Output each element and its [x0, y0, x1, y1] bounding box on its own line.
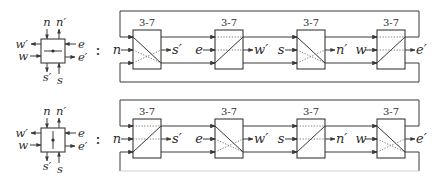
separator-colon: :	[95, 40, 100, 59]
port-label-w: w	[18, 138, 28, 152]
node-center-dot	[51, 138, 54, 141]
switch-configuration-diagram: nn′w′wee′s′s:ns′3-7ew′3-7sn′3-7we′3-7nn′…	[0, 0, 445, 178]
port-label-e-prime: e′	[78, 50, 88, 64]
port-label-w: w	[18, 49, 28, 63]
port-label-n: n	[43, 15, 50, 29]
port-label-s: s	[57, 73, 63, 87]
switch-box-label: 3-7	[383, 106, 399, 117]
switch-box-label: 3-7	[383, 17, 399, 28]
switch-box-label: 3-7	[221, 106, 237, 117]
switch-chain: ns′3-7ew′3-7sn′3-7we′3-7	[113, 11, 427, 82]
switch-chain: ns′3-7ew′3-7sn′3-7we′3-7	[113, 100, 427, 171]
node-center-dot	[51, 49, 54, 52]
port-label-e-prime: e′	[78, 139, 88, 153]
stage-input-label: w	[355, 42, 366, 57]
configuration-row-0: nn′w′wee′s′s:ns′3-7ew′3-7sn′3-7we′3-7	[16, 11, 427, 87]
switch-box-label: 3-7	[139, 106, 155, 117]
feedback-loop-bottom	[120, 63, 419, 82]
port-label-n-prime: n′	[56, 15, 66, 29]
switch-box-label: 3-7	[221, 17, 237, 28]
stage-output-label: s′	[172, 131, 182, 146]
stage-output-label: w′	[254, 42, 268, 57]
stage-input-label: e	[195, 131, 203, 146]
stage-output-label: w′	[254, 131, 268, 146]
port-label-s-prime: s′	[43, 70, 52, 84]
stage-input-label: s	[278, 42, 285, 57]
switch-box-label: 3-7	[303, 106, 319, 117]
port-label-s: s	[57, 162, 63, 176]
port-label-n-prime: n′	[56, 104, 66, 118]
node-icon: nn′w′wee′s′s	[16, 15, 88, 87]
port-label-s-prime: s′	[43, 159, 52, 173]
stage-input-label: e	[195, 42, 203, 57]
switch-box-label: 3-7	[139, 17, 155, 28]
separator-colon: :	[95, 129, 100, 148]
port-label-e: e	[78, 37, 85, 51]
stage-input-label: n	[113, 131, 121, 146]
port-label-e: e	[78, 126, 85, 140]
feedback-loop-bottom	[120, 152, 419, 171]
stage-output-label: n′	[336, 131, 347, 146]
stage-output-label: s′	[172, 42, 182, 57]
stage-input-label: s	[278, 131, 285, 146]
switch-stage-3: we′3-7	[355, 106, 426, 158]
stage-output-label: e′	[416, 131, 427, 146]
stage-output-label: e′	[416, 42, 427, 57]
port-label-n: n	[43, 104, 50, 118]
switch-box-label: 3-7	[303, 17, 319, 28]
feedback-loop-top	[120, 100, 419, 126]
configuration-row-1: nn′w′wee′s′s:ns′3-7ew′3-7sn′3-7we′3-7	[16, 100, 427, 176]
switch-stage-3: we′3-7	[355, 17, 426, 69]
node-icon: nn′w′wee′s′s	[16, 104, 88, 176]
feedback-loop-top	[120, 11, 419, 37]
stage-input-label: w	[355, 131, 366, 146]
stage-input-label: n	[113, 42, 121, 57]
stage-output-label: n′	[336, 42, 347, 57]
